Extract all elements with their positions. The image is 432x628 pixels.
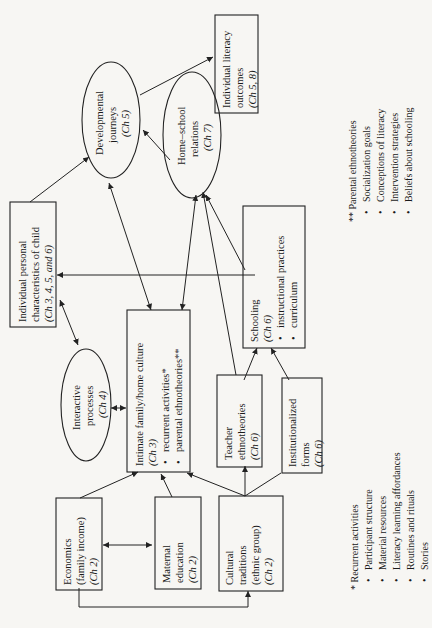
outcomes-line1: Individual literacy bbox=[221, 30, 232, 108]
legend-parental-item: Intervention strategies bbox=[389, 113, 400, 202]
developmental-line2: journeys bbox=[107, 107, 118, 144]
bullet-icon: • bbox=[160, 460, 171, 464]
node-personal-characteristics: Individual personal characteristics of c… bbox=[10, 202, 56, 327]
bullet-icon: • bbox=[419, 578, 430, 582]
legend-parental-ethnotheories: ** Parental ethnotheories • Socializatio… bbox=[347, 108, 414, 222]
legend-recurrent-activities: * Recurrent activities • Participant str… bbox=[349, 452, 430, 590]
legend-recurrent-item: Routines and rituals bbox=[405, 490, 416, 570]
bullet-icon: • bbox=[403, 210, 414, 214]
legend-parental-item: Conceptions of literacy bbox=[375, 109, 386, 202]
teacher-line2: ethnotheories bbox=[236, 403, 247, 460]
node-teacher-ethnotheories: Teacher ethnotheories (Ch 6) bbox=[217, 375, 262, 467]
teacher-line1: Teacher bbox=[223, 426, 234, 460]
developmental-chapter: (Ch 5) bbox=[120, 109, 132, 137]
schooling-title: Schooling bbox=[249, 299, 260, 342]
maternal-chapter: (Ch 2) bbox=[187, 555, 199, 583]
bullet-icon: • bbox=[405, 578, 416, 582]
bullet-icon: • bbox=[375, 210, 386, 214]
legend-parental-item: Beliefs about schooling bbox=[403, 108, 414, 202]
homeschool-line2: relations bbox=[189, 121, 200, 157]
cultural-chapter: (Ch 2) bbox=[263, 557, 275, 585]
bullet-icon: • bbox=[389, 210, 400, 214]
node-interactive-processes: Interactive processes (Ch 4) bbox=[61, 349, 111, 461]
cultural-line3: (ethnic group) bbox=[250, 525, 262, 585]
schooling-chapter: (Ch 6) bbox=[262, 314, 274, 342]
node-schooling: Schooling (Ch 6) • instructional practic… bbox=[243, 206, 305, 348]
institutional-chapter: (Ch 6) bbox=[313, 439, 325, 467]
homeschool-line1: Home–school bbox=[176, 107, 187, 165]
legend-recurrent-item: Participant structure bbox=[363, 489, 374, 570]
node-cultural-traditions: Cultural traditions (ethnic group) (Ch 2… bbox=[219, 496, 283, 591]
bullet-icon: • bbox=[377, 578, 388, 582]
legend-parental-title: ** Parental ethnotheories bbox=[347, 120, 358, 222]
interactive-line1: Interactive bbox=[71, 385, 82, 430]
intimate-bullet-1: recurrent activities* bbox=[160, 368, 171, 452]
legend-recurrent-title: * Recurrent activities bbox=[349, 504, 360, 590]
personal-line1: Individual personal bbox=[17, 241, 28, 322]
homeschool-chapter: (Ch 7) bbox=[202, 123, 214, 151]
node-literacy-outcomes: Individual literacy outcomes (Ch 5, 8) bbox=[215, 15, 259, 113]
node-institutionalized-forms: Institutionalized forms (Ch 6) bbox=[282, 378, 325, 473]
literacy-model-diagram: Economics (family income) (Ch 2) Materna… bbox=[0, 0, 432, 628]
bullet-icon: • bbox=[288, 336, 299, 340]
intimate-title: Intimate family/home culture bbox=[134, 343, 145, 466]
schooling-bullet-2: curriculum bbox=[288, 282, 299, 328]
bullet-icon: • bbox=[275, 336, 286, 340]
economics-line1: Economics bbox=[62, 538, 73, 585]
economics-line2: (family income) bbox=[75, 517, 87, 585]
node-home-school-relations: Home–school relations (Ch 7) bbox=[163, 72, 221, 198]
maternal-line1: Maternal bbox=[161, 545, 172, 583]
legend-recurrent-item: Stories bbox=[419, 542, 430, 570]
bullet-icon: • bbox=[361, 210, 372, 214]
teacher-chapter: (Ch 6) bbox=[249, 432, 261, 460]
legend-recurrent-item: Material resources bbox=[377, 496, 388, 570]
interactive-line2: processes bbox=[84, 386, 95, 426]
personal-chapter: (Ch 3, 4, 5, and 6) bbox=[43, 245, 55, 323]
personal-line2: characteristics of child bbox=[30, 226, 41, 322]
cultural-line1: Cultural bbox=[224, 551, 235, 585]
intimate-chapter: (Ch 3) bbox=[147, 438, 159, 466]
legend-recurrent-item: Literacy learning affordances bbox=[391, 452, 402, 570]
schooling-bullet-1: instructional practices bbox=[275, 236, 286, 328]
bullet-icon: • bbox=[391, 578, 402, 582]
node-developmental-journeys: Developmental journeys (Ch 5) bbox=[82, 62, 140, 178]
legend-parental-item: Socialization goals bbox=[361, 126, 372, 202]
cultural-line2: traditions bbox=[237, 545, 248, 585]
bullet-icon: • bbox=[363, 578, 374, 582]
maternal-line2: education bbox=[174, 541, 185, 583]
intimate-bullet-2: parental ethnotheories** bbox=[173, 348, 184, 452]
outcomes-line2: outcomes bbox=[234, 68, 245, 108]
bullet-icon: • bbox=[173, 460, 184, 464]
node-intimate-family-culture: Intimate family/home culture (Ch 3) • re… bbox=[127, 310, 190, 472]
institutional-line1: Institutionalized bbox=[287, 398, 298, 467]
outcomes-chapter: (Ch 5, 8) bbox=[247, 70, 259, 108]
developmental-line1: Developmental bbox=[94, 91, 105, 155]
node-economics: Economics (family income) (Ch 2) bbox=[56, 498, 102, 590]
node-maternal-education: Maternal education (Ch 2) bbox=[155, 497, 201, 589]
economics-chapter: (Ch 2) bbox=[88, 557, 100, 585]
institutional-line2: forms bbox=[300, 443, 311, 468]
interactive-chapter: (Ch 4) bbox=[97, 390, 109, 418]
